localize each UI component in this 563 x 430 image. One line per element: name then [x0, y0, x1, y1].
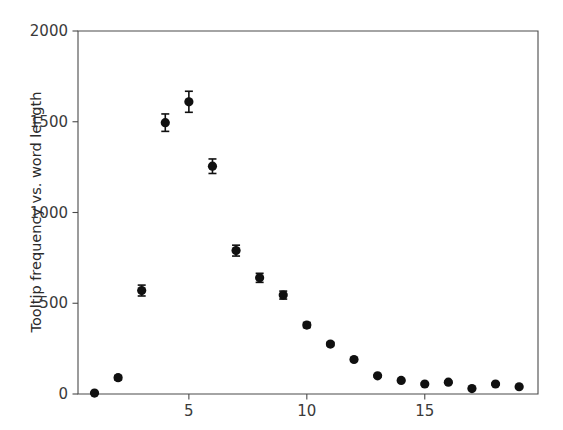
- data-marker: [114, 373, 123, 382]
- data-marker: [349, 355, 358, 364]
- y-axis-label: Tooltip frequency vs. word length: [28, 92, 44, 334]
- y-tick-label: 2000: [30, 22, 68, 40]
- data-marker: [467, 384, 476, 393]
- data-point: [302, 320, 311, 329]
- data-marker: [161, 118, 170, 127]
- ticks-group: [73, 31, 425, 400]
- data-marker: [231, 246, 240, 255]
- data-point: [255, 273, 264, 282]
- x-tick-label: 5: [184, 402, 194, 420]
- data-point: [444, 378, 453, 387]
- data-point: [208, 159, 217, 174]
- plot-frame: [78, 31, 538, 394]
- data-marker: [397, 376, 406, 385]
- data-point: [420, 379, 429, 388]
- data-point: [90, 388, 99, 397]
- data-point: [184, 91, 193, 112]
- data-marker: [208, 162, 217, 171]
- data-marker: [302, 320, 311, 329]
- data-point: [279, 290, 288, 299]
- data-marker: [420, 379, 429, 388]
- data-marker: [515, 382, 524, 391]
- data-points-group: [90, 91, 524, 397]
- axes-group: [78, 31, 538, 394]
- figure-container: 050010001500200051015 Tooltip frequency …: [0, 0, 563, 430]
- data-marker: [326, 339, 335, 348]
- data-marker: [184, 97, 193, 106]
- data-point: [491, 379, 500, 388]
- data-marker: [255, 273, 264, 282]
- tick-labels-group: 050010001500200051015: [30, 22, 435, 420]
- x-tick-label: 10: [297, 402, 316, 420]
- data-point: [397, 376, 406, 385]
- data-point: [231, 245, 240, 256]
- x-tick-label: 15: [415, 402, 434, 420]
- data-point: [161, 114, 170, 131]
- data-point: [373, 371, 382, 380]
- y-axis-label-group: Tooltip frequency vs. word length: [28, 92, 44, 334]
- data-marker: [279, 290, 288, 299]
- y-tick-label: 0: [58, 385, 68, 403]
- data-point: [114, 373, 123, 382]
- data-marker: [373, 371, 382, 380]
- data-point: [137, 285, 146, 296]
- data-marker: [137, 286, 146, 295]
- scatter-plot: 050010001500200051015 Tooltip frequency …: [0, 0, 563, 430]
- data-marker: [444, 378, 453, 387]
- data-marker: [90, 388, 99, 397]
- data-point: [515, 382, 524, 391]
- data-point: [349, 355, 358, 364]
- data-point: [326, 339, 335, 348]
- data-marker: [491, 379, 500, 388]
- data-point: [467, 384, 476, 393]
